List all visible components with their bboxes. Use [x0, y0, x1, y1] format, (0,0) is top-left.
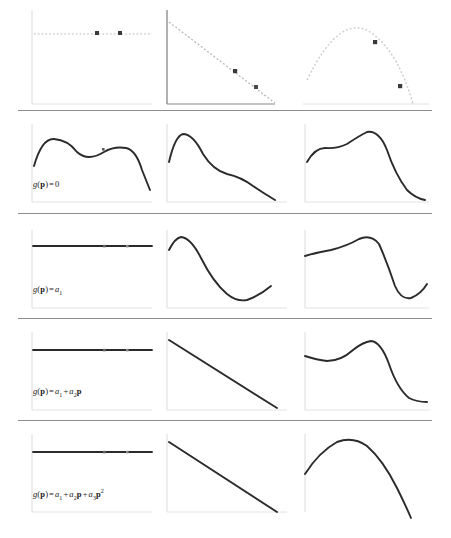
panel-krig-constant-col1: [30, 122, 158, 210]
data-marker: [373, 40, 377, 44]
kriging-curve: [169, 134, 275, 200]
data-marker: [118, 31, 122, 35]
panel-krig-quadratic-col1: [30, 432, 158, 520]
kriging-curve: [305, 341, 427, 402]
data-marker: [102, 148, 105, 151]
kriging-drift-figure: g(p)=0: [0, 0, 451, 538]
figure-row-2: [0, 122, 451, 210]
panel-krig-a1-col3: [303, 228, 433, 316]
panel-krig-a1-col1: [30, 228, 158, 316]
row-separator-3: [18, 318, 432, 319]
data-marker: [103, 245, 106, 248]
data-marker: [254, 85, 258, 89]
panel-quadratic-drift-data: [303, 8, 433, 108]
data-marker: [103, 349, 106, 352]
panel-krig-linear-col2: [165, 330, 293, 418]
data-marker: [398, 84, 402, 88]
row-label-quadratic: g(p)=a1+a2p+a3p2: [33, 488, 104, 501]
panel-krig-constant-col2: [165, 122, 293, 210]
panel-krig-a1-col2: [165, 228, 293, 316]
row-label-linear: g(p)=a1+a2p: [33, 386, 82, 398]
drift-curve-dotted: [307, 28, 413, 104]
row-separator-1: [18, 110, 432, 111]
kriging-curve: [307, 132, 425, 200]
kriging-curve: [169, 340, 277, 408]
panel-constant-drift-data: [30, 8, 158, 108]
row-label-constant: g(p)=0: [33, 179, 59, 189]
row-separator-2: [18, 213, 432, 214]
figure-row-3: [0, 228, 451, 316]
row-separator-4: [18, 420, 432, 421]
panel-krig-quadratic-col3: [303, 432, 433, 524]
figure-row-1: [0, 8, 451, 110]
kriging-curve: [169, 237, 271, 300]
panel-krig-quadratic-col2: [165, 432, 293, 520]
row-label-a1: g(p)=a1: [33, 284, 62, 296]
data-marker: [126, 451, 129, 454]
figure-row-4: [0, 330, 451, 418]
data-marker: [126, 245, 129, 248]
drift-curve-dotted: [169, 22, 275, 103]
data-marker: [103, 451, 106, 454]
data-marker: [95, 31, 99, 35]
data-marker: [233, 69, 237, 73]
kriging-curve: [305, 440, 411, 518]
panel-krig-linear-col1: [30, 330, 158, 418]
panel-krig-constant-col3: [303, 122, 433, 210]
kriging-curve: [169, 442, 277, 512]
kriging-curve: [305, 237, 427, 298]
figure-row-5: [0, 432, 451, 520]
data-marker: [126, 349, 129, 352]
panel-krig-linear-col3: [303, 330, 433, 418]
panel-linear-drift-data: [165, 8, 293, 108]
